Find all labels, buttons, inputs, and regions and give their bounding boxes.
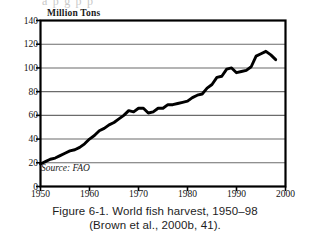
- x-tick-label: 2000: [276, 189, 295, 199]
- x-tick-label: 1970: [129, 189, 148, 199]
- figure-caption: Figure 6-1. World fish harvest, 1950–98 …: [0, 204, 310, 232]
- x-axis-tick-labels: 195019601970198019902000: [0, 0, 310, 210]
- x-tick-label: 1980: [178, 189, 197, 199]
- figure-page: a p g p p Million Tons 02040608010012014…: [0, 0, 310, 240]
- x-tick-label: 1950: [31, 189, 50, 199]
- x-tick-label: 1960: [80, 189, 99, 199]
- source-annotation: Source: FAO: [41, 163, 90, 173]
- figure-caption-line-1: Figure 6-1. World fish harvest, 1950–98: [0, 204, 310, 218]
- x-tick-label: 1990: [227, 189, 246, 199]
- figure-caption-line-2: (Brown et al., 2000b, 41).: [0, 218, 310, 232]
